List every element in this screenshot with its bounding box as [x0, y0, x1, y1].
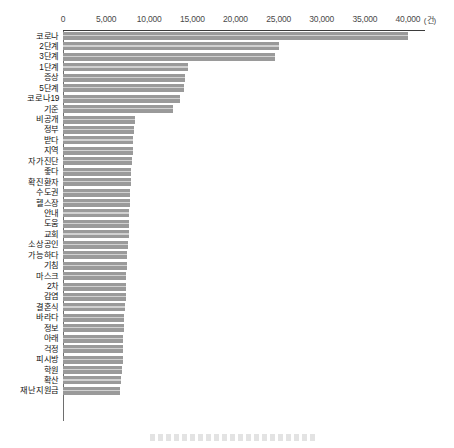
category-label: 코로나19	[0, 94, 59, 103]
bar	[63, 105, 173, 113]
footer-caption-ghost	[150, 434, 315, 441]
category-label: 코로나	[0, 32, 59, 41]
category-label: 재난지원금	[0, 386, 59, 395]
bar-row: 확진환자	[0, 177, 454, 187]
category-label: 감염	[0, 292, 59, 301]
category-label: 비공개	[0, 115, 59, 124]
bar	[63, 84, 184, 92]
bar	[63, 251, 127, 259]
bar-row: 소상공인	[0, 240, 454, 250]
category-label: 기준	[0, 105, 59, 114]
category-label: 수도권	[0, 188, 59, 197]
bar-row: 확산	[0, 375, 454, 385]
category-label: 기침	[0, 261, 59, 270]
bar-row: 5단계	[0, 83, 454, 93]
x-axis-tick-25000: 25,000	[266, 14, 291, 24]
bar	[63, 178, 131, 186]
bar-row: 피시방	[0, 355, 454, 365]
bar	[63, 283, 126, 291]
category-label: 받다	[0, 136, 59, 145]
bar	[63, 376, 121, 384]
bar-row: 학원	[0, 365, 454, 375]
bar-row: 감염	[0, 292, 454, 302]
category-label: 5단계	[0, 84, 59, 93]
bar-row: 2단계	[0, 41, 454, 51]
bar	[63, 220, 129, 228]
bar	[63, 199, 130, 207]
bar-row: 재난지원금	[0, 386, 454, 396]
bar	[63, 241, 128, 249]
bar-chart: 05,00010,00015,00020,00025,00030,00035,0…	[0, 0, 454, 448]
bar-row: 도움	[0, 219, 454, 229]
category-label: 안내	[0, 209, 59, 218]
x-axis-tick-30000: 30,000	[309, 14, 334, 24]
bar-row: 정부	[0, 125, 454, 135]
category-label: 2차	[0, 282, 59, 291]
bar-row: 안내	[0, 208, 454, 218]
category-label: 결혼식	[0, 303, 59, 312]
bar-row: 정보	[0, 323, 454, 333]
bar-row: 교회	[0, 229, 454, 239]
bar	[63, 168, 131, 176]
bar	[63, 116, 135, 124]
bar-row: 바라다	[0, 313, 454, 323]
bar-row: 가능하다	[0, 250, 454, 260]
category-label: 3단계	[0, 52, 59, 61]
bar	[63, 53, 275, 61]
bar-row: 2차	[0, 282, 454, 292]
bar-row: 헬스장	[0, 198, 454, 208]
category-label: 학원	[0, 366, 59, 375]
bar-row: 걱정	[0, 344, 454, 354]
category-label: 좋다	[0, 167, 59, 176]
bar	[63, 136, 133, 144]
category-label: 확진환자	[0, 178, 59, 187]
category-label: 바라다	[0, 313, 59, 322]
category-label: 아래	[0, 334, 59, 343]
bar-row: 받다	[0, 135, 454, 145]
x-axis-tick-15000: 15,000	[180, 14, 205, 24]
bar-row: 자가진단	[0, 156, 454, 166]
bar-row: 3단계	[0, 52, 454, 62]
category-label: 가능하다	[0, 251, 59, 260]
bar-row: 증상	[0, 73, 454, 83]
x-axis-tick-labels: 05,00010,00015,00020,00025,00030,00035,0…	[0, 14, 454, 28]
category-label: 1단계	[0, 63, 59, 72]
x-axis-tick-20000: 20,000	[223, 14, 248, 24]
bar-row: 기준	[0, 104, 454, 114]
x-axis-tick-40000: 40,000	[396, 14, 421, 24]
category-label: 교회	[0, 230, 59, 239]
bar	[63, 387, 120, 395]
bar	[63, 63, 188, 71]
bar	[63, 345, 123, 353]
category-label: 확산	[0, 376, 59, 385]
bar	[63, 272, 126, 280]
bar	[63, 314, 124, 322]
x-axis-tick-0: 0	[61, 14, 66, 24]
category-label: 도움	[0, 219, 59, 228]
bar	[63, 324, 124, 332]
bar	[63, 32, 408, 40]
bar	[63, 335, 123, 343]
bar	[63, 157, 132, 165]
category-label: 정보	[0, 324, 59, 333]
bar	[63, 126, 134, 134]
category-label: 2단계	[0, 42, 59, 51]
category-label: 마스크	[0, 272, 59, 281]
bar	[63, 42, 279, 50]
category-label: 지역	[0, 146, 59, 155]
bar	[63, 209, 129, 217]
bar-row: 1단계	[0, 62, 454, 72]
category-label: 피시방	[0, 355, 59, 364]
x-axis-unit-label: (건)	[424, 14, 436, 25]
x-axis-tick-5000: 5,000	[96, 14, 116, 24]
x-axis-tick-35000: 35,000	[352, 14, 377, 24]
bar-row: 아래	[0, 334, 454, 344]
category-label: 정부	[0, 125, 59, 134]
category-label: 헬스장	[0, 199, 59, 208]
bar-row: 마스크	[0, 271, 454, 281]
bar	[63, 356, 123, 364]
bar	[63, 147, 133, 155]
x-axis-tick-10000: 10,000	[137, 14, 162, 24]
bar	[63, 293, 126, 301]
category-label: 증상	[0, 73, 59, 82]
